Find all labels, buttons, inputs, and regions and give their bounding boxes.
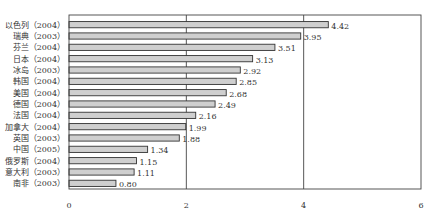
category-label: 中国（2005） — [13, 144, 65, 154]
bar — [69, 101, 215, 107]
category-labels: 以色列（2004）瑞典（2003）芬兰（2004）日本（2004）冰岛（2003… — [5, 20, 65, 189]
x-axis-ticks: 0246 — [66, 201, 423, 210]
bar — [69, 158, 136, 164]
value-label: 3.95 — [304, 33, 322, 42]
bar — [69, 180, 116, 186]
category-label: 以色列（2004） — [5, 20, 65, 30]
bar — [69, 112, 196, 118]
bar — [69, 124, 186, 130]
category-label: 德国（2004） — [13, 99, 65, 109]
bar — [69, 67, 240, 73]
value-label: 0.80 — [119, 180, 137, 189]
category-label: 法国（2004） — [13, 110, 65, 120]
category-label: 日本（2004） — [13, 54, 65, 64]
category-label: 南非（2003） — [13, 178, 65, 188]
bar — [69, 56, 253, 62]
value-label: 2.85 — [239, 78, 257, 87]
category-label: 俄罗斯（2004） — [5, 156, 65, 166]
category-label: 英国（2003） — [13, 133, 65, 143]
category-label: 韩国（2004） — [13, 76, 65, 86]
bar — [69, 90, 226, 96]
value-label: 3.51 — [278, 44, 296, 53]
category-label: 冰岛（2003） — [13, 65, 65, 75]
value-label: 4.42 — [331, 22, 349, 31]
x-tick-label: 2 — [184, 201, 189, 210]
value-label: 2.49 — [218, 101, 236, 110]
x-tick-label: 0 — [66, 201, 71, 210]
category-label: 芬兰（2004） — [13, 42, 65, 52]
value-label: 1.15 — [139, 158, 157, 167]
value-label: 2.16 — [199, 112, 217, 121]
bar — [69, 146, 148, 152]
x-tick-label: 4 — [301, 201, 306, 210]
value-label: 2.68 — [229, 90, 247, 99]
value-label: 1.34 — [151, 146, 169, 155]
category-label: 意大利（2003） — [5, 167, 65, 177]
bar — [69, 135, 179, 141]
bar — [69, 44, 275, 50]
bar-chart: 以色列（2004）瑞典（2003）芬兰（2004）日本（2004）冰岛（2003… — [0, 0, 429, 212]
value-label: 1.99 — [189, 124, 207, 133]
value-label: 1.88 — [182, 135, 200, 144]
value-label: 3.13 — [256, 56, 274, 65]
bar — [69, 33, 301, 39]
category-label: 瑞典（2003） — [13, 31, 65, 41]
category-label: 加拿大（2004） — [5, 122, 65, 132]
category-label: 美国（2004） — [13, 88, 65, 98]
bar — [69, 169, 134, 175]
x-tick-label: 6 — [418, 201, 423, 210]
bar — [69, 78, 236, 84]
value-label: 2.92 — [243, 67, 261, 76]
value-label: 1.11 — [137, 169, 155, 178]
bar — [69, 22, 328, 28]
